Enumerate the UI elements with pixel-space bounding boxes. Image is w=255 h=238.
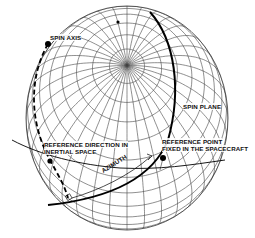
reference-direction-label-1: REFERENCE DIRECTION IN — [44, 141, 128, 148]
spin-axis-label: SPIN AXIS — [50, 34, 81, 41]
reference-direction-label-2: INERTIAL SPACE — [44, 148, 96, 155]
reference-point-spacecraft — [160, 155, 166, 161]
reference-point-label-1: REFERENCE POINT — [162, 138, 222, 145]
spin-plane-label: SPIN PLANE — [183, 103, 221, 110]
reference-point-label-2: FIXED IN THE SPACECRAFT — [162, 145, 248, 152]
pole-point — [116, 20, 119, 23]
reference-direction-point — [47, 158, 52, 163]
spin-axis-point — [45, 41, 51, 47]
celestial-sphere-diagram — [0, 0, 255, 238]
